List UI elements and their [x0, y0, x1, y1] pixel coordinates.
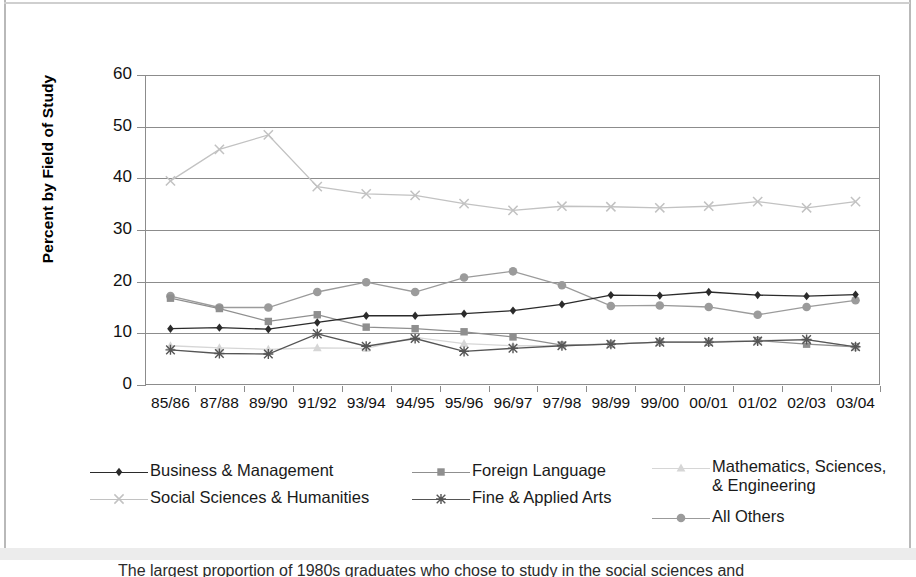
data-point-star: [802, 335, 812, 345]
data-point-diamond: [116, 468, 123, 476]
data-point-star: [410, 334, 420, 344]
figure-caption: The largest proportion of 1980s graduate…: [118, 561, 898, 577]
data-point-star: [361, 341, 371, 351]
data-point-square: [411, 325, 418, 332]
legend-label: Business & Management: [150, 461, 333, 480]
data-point-diamond: [265, 325, 272, 333]
data-point-star: [655, 337, 665, 347]
legend-label: Foreign Language: [472, 461, 606, 480]
legend-item[interactable]: Mathematics, Sciences, & Engineering: [650, 457, 886, 495]
data-point-square: [363, 323, 370, 330]
legend-label: All Others: [712, 507, 784, 526]
data-point-diamond: [510, 306, 517, 314]
series-layer: [0, 0, 916, 440]
legend-item[interactable]: Foreign Language: [410, 461, 606, 481]
bottom-band: [0, 548, 916, 560]
data-point-diamond: [314, 318, 321, 326]
legend-label: Mathematics, Sciences, & Engineering: [712, 457, 886, 495]
data-point-square: [314, 311, 321, 318]
data-point-x: [166, 176, 175, 185]
legend-item[interactable]: All Others: [650, 507, 784, 527]
legend-marker-diamond-icon: [111, 464, 127, 480]
data-point-diamond: [754, 291, 761, 299]
data-point-diamond: [216, 323, 223, 331]
legend-key: [410, 490, 472, 508]
data-point-diamond: [608, 291, 615, 299]
legend-item[interactable]: Fine & Applied Arts: [410, 488, 611, 508]
legend-label: Social Sciences & Humanities: [150, 488, 369, 507]
legend-item[interactable]: Social Sciences & Humanities: [88, 488, 369, 508]
legend-item[interactable]: Business & Management: [88, 461, 333, 481]
data-point-circle: [509, 267, 518, 276]
series-social-sciences-humanities: [166, 130, 860, 215]
chart-legend: Business & ManagementSocial Sciences & H…: [0, 455, 916, 540]
data-point-square: [167, 295, 174, 302]
data-point-diamond: [705, 288, 712, 296]
data-point-square: [460, 328, 467, 335]
data-point-square: [509, 333, 516, 340]
data-point-star: [704, 337, 714, 347]
data-point-star: [165, 345, 175, 355]
legend-label: Fine & Applied Arts: [472, 488, 611, 507]
data-point-x: [215, 145, 224, 154]
data-point-circle: [704, 303, 713, 312]
data-point-x: [264, 130, 273, 139]
legend-marker-triangle-icon: [673, 460, 689, 476]
data-point-star: [753, 336, 763, 346]
data-point-star: [214, 348, 224, 358]
data-point-diamond: [412, 312, 419, 320]
data-point-diamond: [559, 300, 566, 308]
data-point-star: [436, 494, 446, 504]
data-point-circle: [802, 303, 811, 312]
data-point-diamond: [363, 312, 370, 320]
legend-key: [88, 490, 150, 508]
data-point-star: [606, 339, 616, 349]
legend-key: [410, 463, 472, 481]
data-point-circle: [607, 302, 616, 311]
data-point-circle: [264, 303, 273, 312]
data-point-square: [265, 318, 272, 325]
legend-key: [650, 509, 712, 527]
legend-marker-circle-icon: [673, 510, 689, 526]
data-point-star: [508, 343, 518, 353]
legend-marker-square-icon: [433, 464, 449, 480]
data-point-triangle: [677, 463, 686, 471]
legend-key: [88, 463, 150, 481]
data-point-star: [312, 329, 322, 339]
data-point-star: [459, 346, 469, 356]
data-point-square: [437, 468, 444, 475]
chart-page: Percent by Field of Study 6050403020100 …: [0, 0, 916, 577]
data-point-circle: [677, 514, 686, 523]
data-point-circle: [313, 288, 322, 297]
data-point-circle: [558, 281, 567, 290]
data-point-circle: [656, 301, 665, 310]
data-point-circle: [460, 273, 469, 282]
data-point-diamond: [657, 291, 664, 299]
data-point-circle: [362, 278, 371, 287]
data-point-diamond: [803, 292, 810, 300]
data-point-circle: [411, 288, 420, 297]
data-point-square: [216, 305, 223, 312]
data-point-diamond: [461, 310, 468, 318]
data-point-star: [263, 349, 273, 359]
data-point-star: [851, 342, 861, 352]
series-line: [170, 135, 855, 210]
legend-marker-x-icon: [111, 491, 127, 507]
legend-marker-star-icon: [433, 491, 449, 507]
line-chart: Percent by Field of Study 6050403020100 …: [0, 0, 916, 440]
data-point-diamond: [167, 324, 174, 332]
data-point-star: [557, 341, 567, 351]
legend-key: [650, 459, 712, 477]
data-point-x: [114, 494, 123, 503]
data-point-circle: [753, 310, 762, 319]
